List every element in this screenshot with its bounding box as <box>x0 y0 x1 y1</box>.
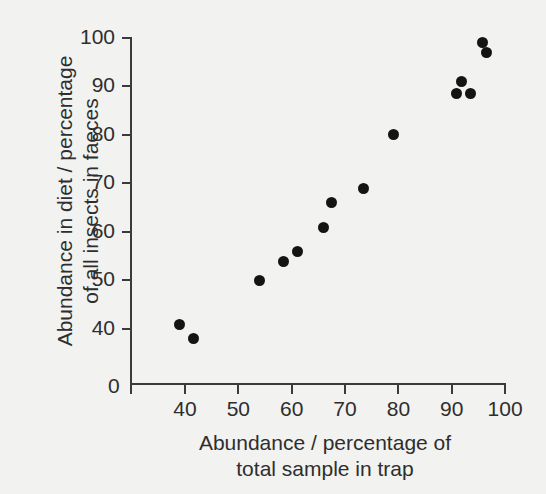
x-tick-mark <box>397 384 399 394</box>
y-tick-mark <box>122 134 132 136</box>
x-axis-line <box>130 383 506 385</box>
x-tick-mark <box>344 384 346 394</box>
y-axis-title-line-2: of all insects in faeces <box>78 11 104 391</box>
y-tick-mark <box>122 182 132 184</box>
data-point <box>358 183 369 194</box>
x-axis-title-line-2: total sample in trap <box>120 456 530 482</box>
x-tick-mark <box>184 384 186 394</box>
data-point <box>465 88 476 99</box>
data-point <box>326 197 337 208</box>
y-tick-mark <box>122 328 132 330</box>
data-point <box>188 333 199 344</box>
data-point <box>456 76 467 87</box>
y-axis-title-line-1: Abundance in diet / percentage <box>52 11 78 391</box>
data-point <box>318 222 329 233</box>
y-axis-line <box>130 37 132 385</box>
data-point <box>174 319 185 330</box>
data-point <box>278 256 289 267</box>
data-point <box>388 129 399 140</box>
y-tick-mark <box>122 231 132 233</box>
scatter-plot: 405060708090100 405060708090100 0 Abunda… <box>0 0 546 494</box>
y-tick-mark <box>122 279 132 281</box>
x-tick-mark <box>504 384 506 394</box>
y-tick-mark <box>122 37 132 39</box>
data-point <box>254 275 265 286</box>
data-point <box>292 246 303 257</box>
x-axis-title-line-1: Abundance / percentage of <box>120 430 530 456</box>
y-axis-origin-label: 0 <box>108 374 120 398</box>
x-tick-label: 100 <box>474 397 536 421</box>
data-point <box>451 88 462 99</box>
data-point <box>481 47 492 58</box>
x-axis-title: Abundance / percentage of total sample i… <box>120 430 530 482</box>
origin-tick-mark <box>130 384 132 394</box>
x-tick-mark <box>237 384 239 394</box>
x-tick-mark <box>291 384 293 394</box>
y-axis-title: Abundance in diet / percentage of all in… <box>52 11 104 391</box>
x-tick-mark <box>451 384 453 394</box>
y-tick-mark <box>122 85 132 87</box>
